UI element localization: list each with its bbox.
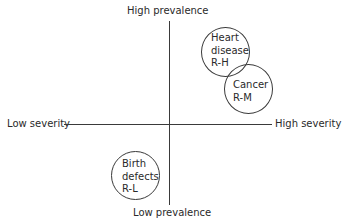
birth-defects-label: Birth defects R-L	[122, 158, 159, 196]
axis-label-bottom: Low prevalence	[133, 207, 211, 219]
horizontal-axis	[64, 124, 272, 125]
axis-label-top: High prevalence	[127, 5, 209, 17]
cancer-label: Cancer R-M	[233, 79, 268, 104]
axis-label-right: High severity	[275, 118, 341, 130]
vertical-axis	[169, 21, 170, 205]
axis-label-left: Low severity	[7, 118, 70, 130]
